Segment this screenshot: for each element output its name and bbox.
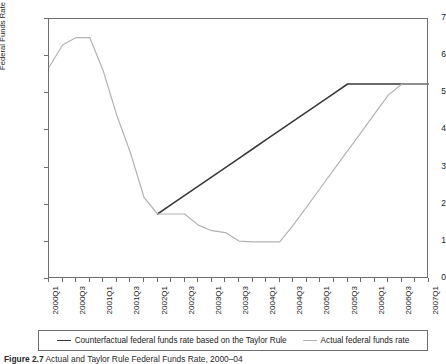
x-tick-label: 2005Q3 — [351, 286, 359, 314]
legend-entry: Actual federal funds rate — [303, 336, 410, 345]
x-tick-label: 2007Q1 — [432, 286, 440, 314]
legend-entry: Counterfactual federal funds rate based … — [57, 336, 287, 345]
chart-series-line — [49, 38, 429, 242]
y-tick-label: 7 — [432, 13, 446, 22]
y-tick-label: 3 — [432, 162, 446, 171]
legend-label: Counterfactual federal funds rate based … — [75, 336, 287, 345]
plot-area — [48, 18, 428, 278]
y-tick-label: 2 — [432, 199, 446, 208]
x-tick-label: 2002Q3 — [188, 286, 196, 314]
x-tick-label: 2003Q1 — [215, 286, 223, 314]
caption-label: Figure 2.7 — [4, 354, 44, 364]
y-tick-label: 4 — [432, 124, 446, 133]
figure-caption: Figure 2.7 Actual and Taylor Rule Federa… — [4, 354, 442, 364]
x-tick-label: 2004Q3 — [296, 286, 304, 314]
legend-swatch-icon — [303, 340, 317, 341]
chart-series-line — [158, 84, 429, 214]
caption-text: Actual and Taylor Rule Federal Funds Rat… — [45, 354, 242, 364]
y-tick-label: 5 — [432, 87, 446, 96]
x-tick-label: 2005Q1 — [323, 286, 331, 314]
chart-legend: Counterfactual federal funds rate based … — [38, 330, 428, 351]
x-tick-label: 2000Q1 — [52, 286, 60, 314]
figure-container: Federal Funds Rate (Percent) 01234567 20… — [0, 0, 446, 364]
x-tick-label: 2006Q3 — [405, 286, 413, 314]
y-tick-label: 1 — [432, 236, 446, 245]
y-tick-label: 6 — [432, 50, 446, 59]
x-tick-label: 2002Q1 — [161, 286, 169, 314]
y-tick-label: 0 — [432, 273, 446, 282]
legend-swatch-icon — [57, 340, 71, 341]
chart-lines — [49, 19, 429, 279]
x-tick-label: 2001Q3 — [133, 286, 141, 314]
x-tick-label: 2001Q1 — [106, 286, 114, 314]
y-axis-title: Federal Funds Rate (Percent) — [0, 0, 7, 70]
legend-label: Actual federal funds rate — [321, 336, 410, 345]
x-tick-label: 2004Q1 — [269, 286, 277, 314]
x-tick-label: 2003Q3 — [242, 286, 250, 314]
x-tick-label: 2006Q1 — [378, 286, 386, 314]
x-tick-label: 2000Q3 — [79, 286, 87, 314]
